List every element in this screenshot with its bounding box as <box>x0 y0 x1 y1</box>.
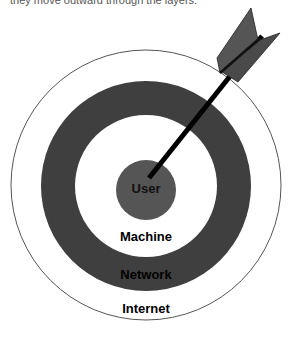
label-user: User <box>132 181 161 196</box>
label-internet: Internet <box>122 301 170 316</box>
label-machine: Machine <box>120 229 172 244</box>
label-network: Network <box>120 267 172 282</box>
target-diagram: User Machine Network Internet <box>0 0 292 341</box>
